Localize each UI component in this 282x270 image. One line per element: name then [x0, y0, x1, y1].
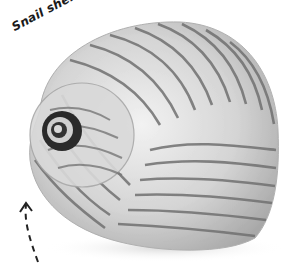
snail-shell-illustration: Snail shell: [0, 0, 282, 270]
snail-shell-graphic: [0, 0, 282, 270]
dashed-arrow: [26, 205, 38, 262]
